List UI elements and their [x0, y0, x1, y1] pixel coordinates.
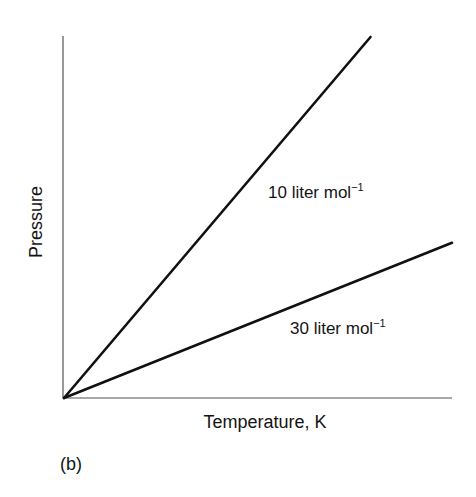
- y-axis-label: Pressure: [26, 186, 46, 258]
- series-line-30-liter-per-mol: [64, 243, 452, 398]
- series-line-10-liter-per-mol: [64, 37, 371, 398]
- x-axis-label: Temperature, K: [203, 412, 326, 432]
- series-label-30-liter-per-mol: 30 liter mol−1: [290, 317, 386, 338]
- panel-label: (b): [60, 454, 82, 474]
- pressure-temperature-chart: 10 liter mol−1 30 liter mol−1 Temperatur…: [0, 0, 476, 497]
- series-label-10-liter-per-mol: 10 liter mol−1: [268, 181, 364, 202]
